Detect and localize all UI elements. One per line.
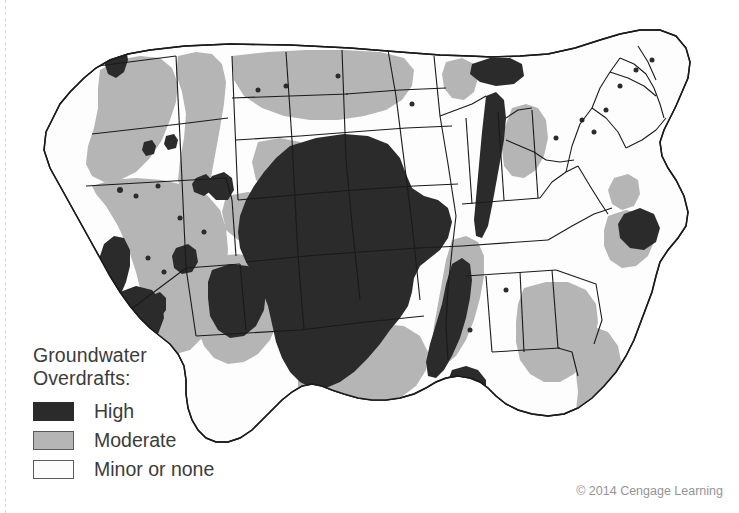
legend-label-minor: Minor or none [94, 458, 214, 481]
legend-swatch-high-icon [33, 402, 74, 421]
legend-title-line2: Overdrafts: [33, 367, 283, 390]
legend-items: High Moderate Minor or none [33, 397, 283, 484]
legend-item-moderate[interactable]: Moderate [33, 426, 283, 455]
legend-swatch-minor-icon [33, 460, 74, 479]
legend-title-line1: Groundwater [33, 344, 283, 367]
copyright-credit: © 2014 Cengage Learning [576, 484, 723, 498]
legend-label-moderate: Moderate [94, 429, 176, 452]
legend-label-high: High [94, 400, 134, 423]
legend: Groundwater Overdrafts: High Moderate Mi… [33, 344, 283, 484]
legend-item-high[interactable]: High [33, 397, 283, 426]
figure-groundwater-overdraft-map: Groundwater Overdrafts: High Moderate Mi… [0, 0, 739, 513]
legend-item-minor[interactable]: Minor or none [33, 455, 283, 484]
legend-swatch-moderate-icon [33, 431, 74, 450]
